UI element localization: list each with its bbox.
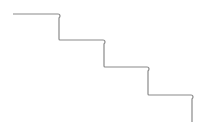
staircase-line bbox=[13, 14, 193, 122]
staircase-diagram bbox=[0, 0, 203, 133]
